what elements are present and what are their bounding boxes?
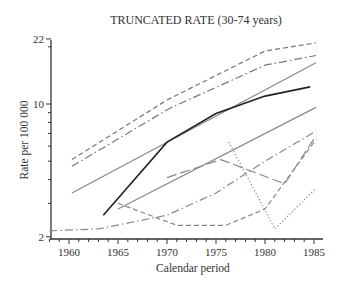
y-tick-label: 2 — [39, 231, 45, 243]
chart: TRUNCATED RATE (30-74 years) 21022 19601… — [0, 0, 342, 288]
series-line-4 — [103, 87, 310, 215]
y-tick-label: 22 — [33, 33, 44, 45]
x-tick-label: 1985 — [303, 246, 326, 258]
x-axis-label: Calendar period — [156, 262, 230, 275]
x-tick-label: 1965 — [107, 246, 130, 258]
x-ticks: 196019651970197519801985 — [49, 239, 325, 258]
y-tick-label: 10 — [33, 98, 45, 110]
series-line-1 — [72, 43, 316, 160]
chart-title: TRUNCATED RATE (30-74 years) — [110, 13, 282, 27]
x-tick-label: 1960 — [58, 246, 81, 258]
axes: 21022 196019651970197519801985 — [33, 33, 326, 258]
y-ticks: 21022 — [33, 33, 51, 243]
x-tick-label: 1975 — [205, 246, 228, 258]
y-axis-label: Rate per 100 000 — [18, 100, 31, 179]
series-line-5 — [118, 107, 316, 209]
series-line-3 — [72, 63, 316, 193]
series-lines — [49, 43, 316, 231]
series-line-2 — [72, 56, 316, 167]
x-tick-label: 1970 — [156, 246, 179, 258]
x-tick-label: 1980 — [254, 246, 277, 258]
